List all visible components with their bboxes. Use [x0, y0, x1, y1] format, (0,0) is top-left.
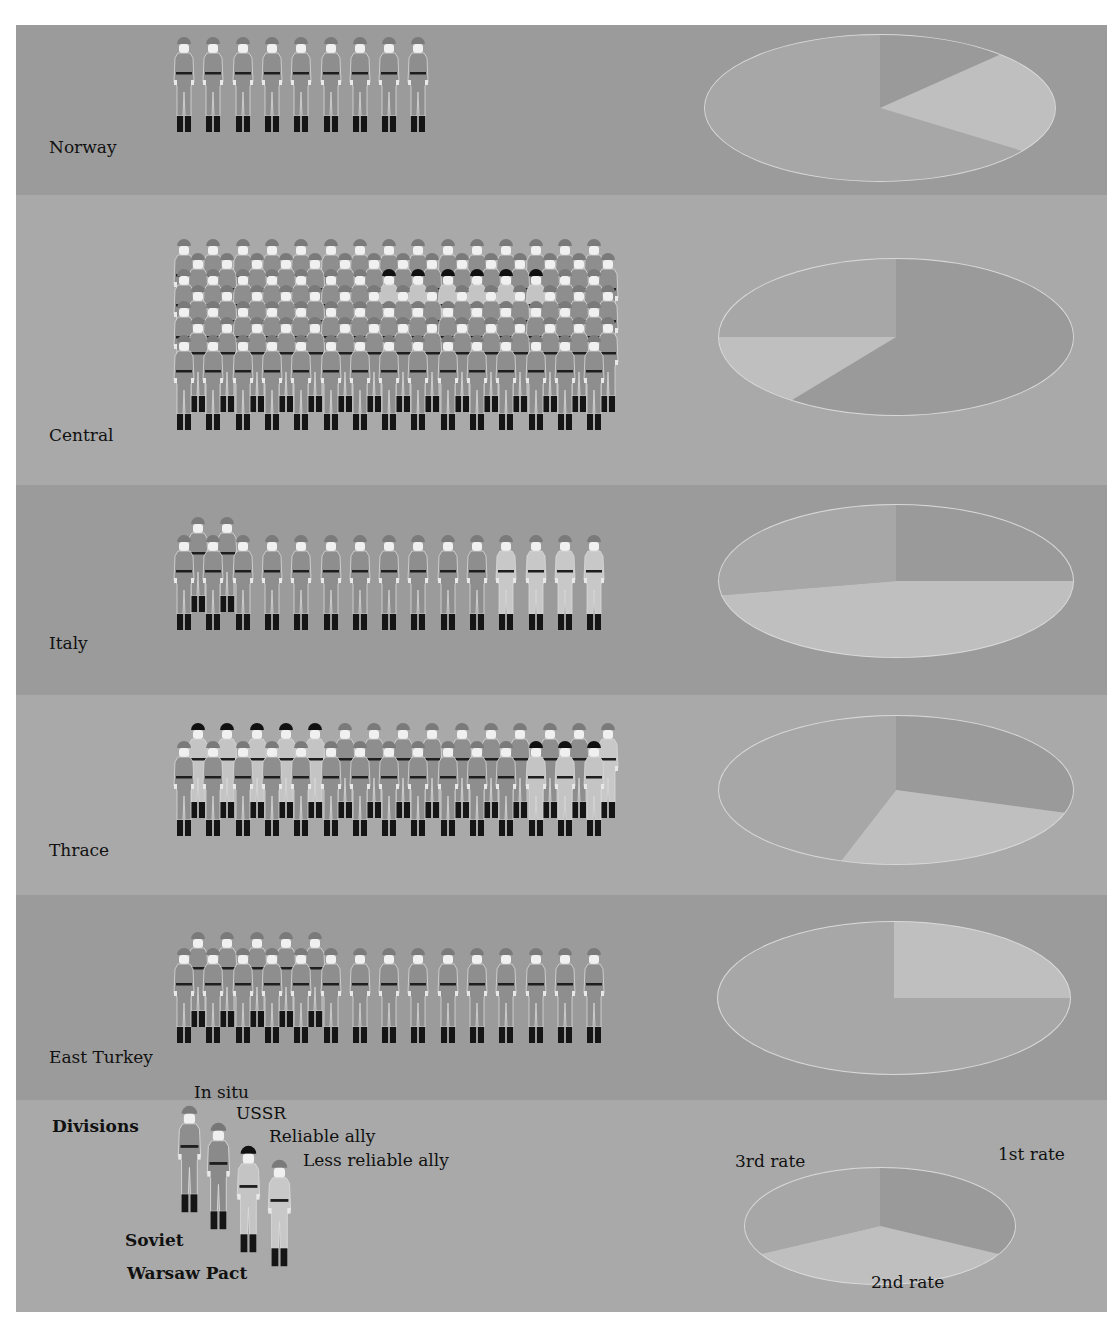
soldier-icon-in-situ [553, 941, 577, 1049]
soldier-icon-in-situ [172, 734, 196, 842]
soldier-icon-in-situ [201, 30, 225, 138]
pie-slice-rate1 [896, 505, 1073, 581]
soldier-icon-less-reliable-ally [582, 528, 606, 636]
soldier-icon-in-situ [260, 30, 284, 138]
soldier-icon-in-situ [582, 941, 606, 1049]
soldier-icon-in-situ [319, 328, 343, 436]
legend-group-warsaw-pact: Warsaw Pact [127, 1263, 247, 1283]
soldier-icon-in-situ [436, 528, 460, 636]
soldier-icon-in-situ [172, 941, 196, 1049]
region-label: Norway [49, 137, 117, 157]
soldier-icon-in-situ [201, 734, 225, 842]
region-band-italy: Italy [16, 485, 1107, 695]
soldier-icon-in-situ [348, 528, 372, 636]
soldier-icon-in-situ [231, 30, 255, 138]
legend-label-reliable-ally: Reliable ally [269, 1126, 375, 1146]
readiness-pie-italy [715, 501, 1077, 661]
legend-pie-label-rate1: 1st rate [998, 1144, 1065, 1164]
soldier-icon-in-situ [377, 734, 401, 842]
soldier-icon-reliable-ally [582, 734, 606, 842]
soldier-icon-in-situ [553, 328, 577, 436]
soldier-icon-in-situ [436, 734, 460, 842]
soldier-icon-reliable-ally [524, 734, 548, 842]
readiness-pie-central [715, 255, 1077, 419]
soldier-icon-in-situ [465, 734, 489, 842]
soldier-icon-in-situ [377, 528, 401, 636]
region-label: Central [49, 425, 114, 445]
soldier-icon-reliable-ally [553, 734, 577, 842]
soldier-icon-in-situ [494, 734, 518, 842]
soldier-icon-in-situ [436, 941, 460, 1049]
legend-label-in-situ: In situ [194, 1082, 249, 1102]
soldier-icon-in-situ [406, 941, 430, 1049]
region-label: Thrace [49, 840, 109, 860]
legend-title: Divisions [52, 1116, 139, 1136]
soldier-icon-in-situ [494, 328, 518, 436]
soldier-icon-in-situ [524, 328, 548, 436]
legend-band: DivisionsIn situUSSRReliable allyLess re… [16, 1100, 1107, 1312]
soldier-icon-in-situ [319, 528, 343, 636]
soldier-icon-in-situ [201, 941, 225, 1049]
infographic-panel: NorwayCentralItalyThraceEast TurkeyDivis… [16, 25, 1107, 1312]
soldier-icon-in-situ [289, 328, 313, 436]
soldier-icon-in-situ [524, 941, 548, 1049]
soldier-icon-in-situ [289, 734, 313, 842]
region-label: Italy [49, 633, 88, 653]
soldier-icon-in-situ [289, 30, 313, 138]
soldier-icon-in-situ [201, 528, 225, 636]
soldier-icon-in-situ [172, 30, 196, 138]
soldier-icon-in-situ [348, 328, 372, 436]
soldier-icon-in-situ [406, 30, 430, 138]
soldier-icon-in-situ [231, 328, 255, 436]
legend-soldier-in-situ-icon [176, 1098, 203, 1218]
soldier-icon-in-situ [406, 328, 430, 436]
soldier-icon-less-reliable-ally [494, 528, 518, 636]
soldier-icon-less-reliable-ally [524, 528, 548, 636]
legend-pie-label-rate2: 2nd rate [871, 1272, 944, 1292]
soldier-icon-in-situ [260, 328, 284, 436]
legend-pie-label-rate3: 3rd rate [735, 1151, 805, 1171]
readiness-pie-east-turkey [714, 918, 1074, 1078]
soldier-icon-in-situ [406, 734, 430, 842]
pie-slice-rate3 [719, 505, 896, 595]
soldier-icon-in-situ [348, 734, 372, 842]
soldier-icon-in-situ [465, 328, 489, 436]
soldier-icon-in-situ [172, 328, 196, 436]
soldier-icon-in-situ [348, 30, 372, 138]
soldier-icon-less-reliable-ally [553, 528, 577, 636]
soldier-icon-in-situ [231, 734, 255, 842]
soldier-icon-in-situ [260, 941, 284, 1049]
soldier-icon-in-situ [377, 328, 401, 436]
region-band-thrace: Thrace [16, 695, 1107, 895]
legend-label-ussr: USSR [236, 1103, 286, 1123]
legend-label-less-reliable-ally: Less reliable ally [303, 1150, 449, 1170]
soldier-icon-in-situ [260, 528, 284, 636]
soldier-icon-in-situ [231, 941, 255, 1049]
region-band-central: Central [16, 195, 1107, 485]
soldier-icon-in-situ [436, 328, 460, 436]
soldier-icon-in-situ [260, 734, 284, 842]
soldier-icon-in-situ [201, 328, 225, 436]
soldier-icon-in-situ [319, 941, 343, 1049]
region-band-east-turkey: East Turkey [16, 895, 1107, 1100]
soldier-icon-in-situ [289, 941, 313, 1049]
legend-soldier-reliable-ally-icon [235, 1138, 262, 1258]
soldier-icon-in-situ [319, 734, 343, 842]
pie-slice-rate3 [719, 259, 896, 337]
soldier-icon-in-situ [465, 941, 489, 1049]
soldier-icon-in-situ [377, 941, 401, 1049]
soldier-icon-in-situ [172, 528, 196, 636]
legend-readiness-pie [741, 1164, 1019, 1288]
pie-slice-rate2 [894, 922, 1070, 998]
soldier-icon-in-situ [582, 328, 606, 436]
pie-slice-rate2 [722, 581, 1073, 657]
readiness-pie-thrace [715, 712, 1077, 868]
soldier-icon-in-situ [289, 528, 313, 636]
region-band-norway: Norway [16, 25, 1107, 195]
soldier-icon-in-situ [319, 30, 343, 138]
soldier-icon-in-situ [377, 30, 401, 138]
legend-soldier-ussr-icon [205, 1115, 232, 1235]
legend-group-soviet: Soviet [125, 1230, 184, 1250]
soldier-icon-in-situ [465, 528, 489, 636]
region-label: East Turkey [49, 1047, 153, 1067]
